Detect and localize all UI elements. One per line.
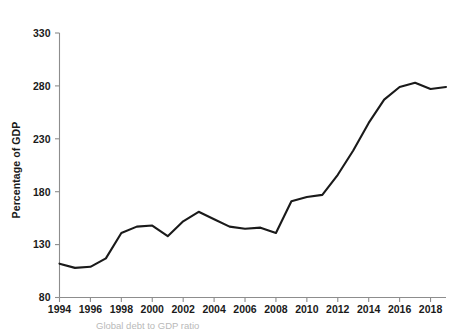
- x-tick-label: 2012: [326, 303, 350, 315]
- y-tick-label: 180: [33, 186, 51, 198]
- x-tick-label: 1996: [79, 303, 103, 315]
- y-axis-label-text: Percentage of GDP: [10, 122, 22, 219]
- x-tick-label: 2004: [202, 303, 226, 315]
- axes: [60, 33, 447, 298]
- y-axis-ticks: 80130180230280330: [33, 27, 60, 304]
- chart-figure: Percentage of GDP 80130180230280330 1994…: [0, 0, 456, 331]
- x-tick-label: 2018: [419, 303, 443, 315]
- x-tick-label: 1998: [110, 303, 134, 315]
- x-tick-label: 2016: [388, 303, 412, 315]
- y-tick-label: 130: [33, 238, 51, 250]
- figure-caption: Global debt to GDP ratio: [96, 320, 199, 331]
- x-tick-label: 2002: [172, 303, 196, 315]
- x-tick-label: 2010: [295, 303, 319, 315]
- y-tick-label: 330: [33, 27, 51, 39]
- x-axis-ticks: 1994199619982000200220042006200820102012…: [48, 298, 443, 316]
- data-series-group: [60, 83, 447, 268]
- series-line-global-debt-to-gdp: [60, 83, 447, 268]
- y-tick-label: 230: [33, 133, 51, 145]
- y-axis-label: Percentage of GDP: [10, 122, 22, 219]
- y-tick-label: 280: [33, 80, 51, 92]
- x-tick-label: 2000: [141, 303, 165, 315]
- x-tick-label: 2008: [264, 303, 288, 315]
- x-tick-label: 1994: [48, 303, 72, 315]
- x-tick-label: 2014: [357, 303, 381, 315]
- y-tick-label: 80: [39, 291, 51, 303]
- line-chart-svg: Percentage of GDP 80130180230280330 1994…: [0, 0, 456, 331]
- x-tick-label: 2006: [233, 303, 257, 315]
